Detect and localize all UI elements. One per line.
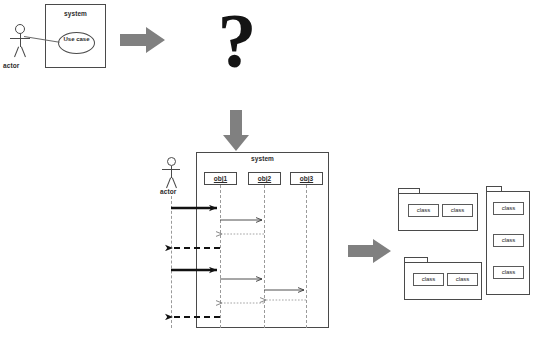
class-label: class bbox=[493, 234, 524, 247]
question-mark-glyph: ? bbox=[202, 2, 272, 80]
actor-right-leg bbox=[21, 47, 26, 58]
actor-arms bbox=[162, 169, 180, 170]
lifeline-obj1 bbox=[220, 185, 221, 328]
use-case-system-label: system bbox=[45, 10, 106, 17]
actor-arms bbox=[10, 38, 30, 39]
actor-left-leg bbox=[166, 178, 171, 189]
lifeline-label-obj2: obj2 bbox=[248, 175, 281, 182]
class-label: class bbox=[447, 273, 478, 286]
gray-block-arrow-right-icon bbox=[120, 26, 166, 54]
class-label: class bbox=[408, 204, 439, 217]
use-case-actor-figure bbox=[6, 24, 34, 60]
lifeline-obj2 bbox=[264, 185, 265, 328]
class-label: class bbox=[493, 266, 524, 279]
diagram-canvas: system Use case actor ? system bbox=[0, 0, 533, 338]
actor-head-icon bbox=[15, 24, 25, 34]
lifeline-label-obj3: obj3 bbox=[290, 175, 323, 182]
class-label: class bbox=[413, 273, 444, 286]
gray-block-arrow-down-icon bbox=[222, 110, 250, 152]
actor-torso bbox=[171, 166, 172, 178]
lifeline-label-obj1: obj1 bbox=[204, 175, 237, 182]
lifeline-obj3 bbox=[306, 185, 307, 328]
use-case-ellipse-label: Use case bbox=[58, 35, 95, 43]
actor-lifeline bbox=[171, 196, 172, 328]
actor-left-leg bbox=[14, 47, 19, 58]
sequence-system-label: system bbox=[196, 155, 329, 162]
sequence-actor-figure bbox=[158, 157, 186, 191]
actor-right-leg bbox=[172, 178, 177, 189]
sequence-actor-label: actor bbox=[160, 188, 176, 195]
use-case-actor-label: actor bbox=[3, 62, 19, 69]
gray-block-arrow-right-icon bbox=[348, 238, 392, 264]
actor-head-icon bbox=[167, 157, 176, 166]
class-label: class bbox=[442, 204, 473, 217]
class-label: class bbox=[493, 202, 524, 215]
actor-torso bbox=[20, 34, 21, 47]
